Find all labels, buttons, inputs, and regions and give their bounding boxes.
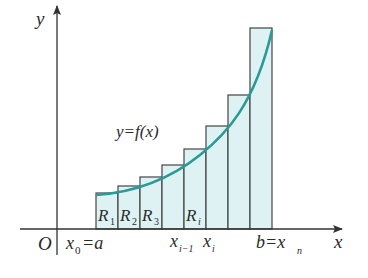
curve-label: y=f(x) bbox=[114, 122, 159, 141]
svg-text:x: x bbox=[65, 233, 74, 253]
svg-text:2: 2 bbox=[132, 216, 137, 227]
svg-text:i−1: i−1 bbox=[179, 243, 194, 254]
svg-text:R: R bbox=[119, 206, 131, 225]
svg-text:1: 1 bbox=[110, 216, 115, 227]
svg-text:b=x: b=x bbox=[256, 232, 285, 252]
riemann-diagram: y x O y=f(x) x 0 =a x i−1 x i b=x n R 1 … bbox=[0, 0, 368, 278]
svg-text:0: 0 bbox=[75, 244, 81, 256]
svg-text:R: R bbox=[97, 206, 109, 225]
svg-text:3: 3 bbox=[154, 216, 159, 227]
rect-4 bbox=[162, 165, 184, 229]
xi-label: x i bbox=[202, 231, 215, 254]
x0-label: x 0 =a bbox=[65, 233, 103, 256]
x-axis-label: x bbox=[333, 231, 343, 252]
svg-text:=a: =a bbox=[82, 233, 103, 253]
svg-text:i: i bbox=[198, 216, 201, 227]
xi-minus-1-label: x i−1 bbox=[169, 231, 194, 254]
svg-text:x: x bbox=[202, 231, 211, 251]
rect-8 bbox=[250, 28, 272, 229]
svg-text:i: i bbox=[212, 243, 215, 254]
b-xn-label: b=x n bbox=[256, 232, 302, 256]
origin-label: O bbox=[38, 233, 52, 254]
svg-text:R: R bbox=[141, 206, 153, 225]
svg-text:x: x bbox=[169, 231, 178, 251]
svg-text:n: n bbox=[297, 245, 302, 256]
svg-text:R: R bbox=[185, 206, 197, 225]
y-axis-label: y bbox=[34, 8, 45, 29]
